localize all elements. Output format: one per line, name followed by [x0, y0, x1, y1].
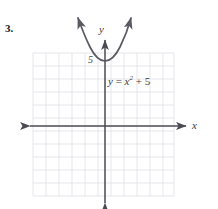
parabola-right-branch [105, 18, 131, 61]
y-axis-label: y [99, 23, 104, 35]
equation-constant: 5 [145, 75, 151, 87]
x-axis-label: x [192, 119, 197, 131]
equation-equals: = [116, 75, 122, 87]
grid-lines [33, 53, 174, 196]
coordinate-plane-svg [0, 0, 218, 209]
equation-plus: + [136, 75, 142, 87]
equation-lhs: y [108, 75, 113, 87]
equation-exponent: 2 [130, 74, 134, 82]
vertex-value-label: 5 [88, 54, 93, 65]
graph-figure: 3. [0, 0, 218, 209]
equation-label: y = x2 + 5 [108, 74, 150, 87]
